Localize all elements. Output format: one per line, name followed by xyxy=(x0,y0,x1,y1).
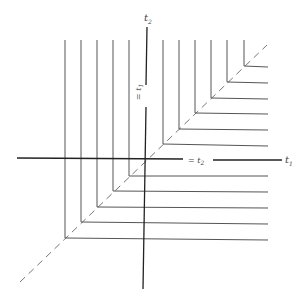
vertical-axis-label: t2 xyxy=(144,12,152,25)
contour-line xyxy=(65,40,268,240)
contour-lines xyxy=(65,40,268,240)
contour-line xyxy=(227,40,268,83)
horizontal-axis-label: t1 xyxy=(285,154,293,167)
vertical-axis xyxy=(146,27,147,85)
vertical-annotation: = t1 xyxy=(134,84,144,100)
horizontal-annotation: = t2 xyxy=(188,156,204,166)
vertical-axis xyxy=(143,107,146,289)
contour-line xyxy=(179,40,268,130)
horizontal-axis xyxy=(17,158,183,159)
contour-diagram: t2 t1 = t1 = t2 xyxy=(0,0,307,301)
contour-line xyxy=(97,40,268,208)
contour-line xyxy=(113,40,268,192)
